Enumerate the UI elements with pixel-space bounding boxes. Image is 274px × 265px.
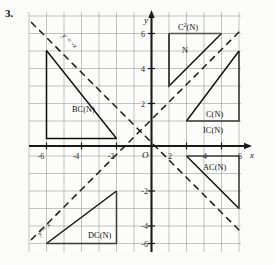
y-tick-label-6: 6 [141, 30, 145, 39]
x-tick-label-neg2: -2 [108, 152, 115, 161]
x-axis-label: x [249, 150, 254, 160]
region-label-dc-n: DC(N) [88, 231, 111, 240]
region-label-n: N [182, 46, 188, 55]
y-tick-label-4: 4 [141, 65, 145, 74]
region-label-ic-n: IC(N) [203, 126, 223, 135]
x-tick-label-neg4: -4 [73, 152, 80, 161]
x-tick-label-neg6: -6 [38, 152, 45, 161]
y-axis-label: y [143, 15, 148, 25]
origin-label: O [142, 150, 149, 160]
region-label-c-n: C(N) [206, 110, 223, 119]
region-label-bc-n: BC(N) [72, 105, 95, 114]
y-tick-label-2: 2 [141, 100, 145, 109]
coordinate-plot: -6 -4 -2 2 4 6 6 4 2 -2 -4 -6 O y x y = … [0, 0, 274, 265]
x-axis-arrow [244, 143, 252, 149]
x-tick-label-4: 4 [203, 152, 207, 161]
y-tick-label-neg2: -2 [141, 187, 148, 196]
x-tick-label-6: 6 [238, 152, 242, 161]
region-label-c2-n: C2(N) [178, 22, 198, 32]
y-tick-label-neg4: -4 [141, 222, 148, 231]
x-tick-label-2: 2 [168, 152, 172, 161]
region-label-ac-n: AC(N) [203, 163, 226, 172]
y-tick-label-neg6: -6 [141, 240, 148, 249]
figure-container: 3. [0, 0, 274, 265]
